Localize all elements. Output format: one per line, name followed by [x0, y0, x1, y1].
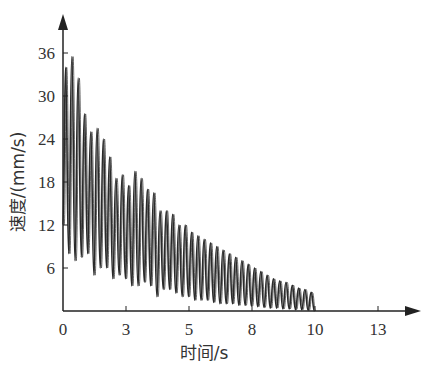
x-axis-title: 时间/s [180, 343, 229, 363]
x-tick-label: 13 [370, 320, 387, 339]
y-axis-title: 速度/(mm/s) [8, 132, 28, 233]
x-axis [63, 306, 421, 316]
x-tick-label: 3 [122, 320, 131, 339]
y-tick-label: 30 [38, 87, 55, 106]
y-axis-arrow-icon [58, 14, 68, 30]
x-tick-label: 8 [248, 320, 257, 339]
y-tick-label: 24 [38, 130, 56, 149]
y-tick-label: 18 [38, 173, 55, 192]
x-tick-label: 10 [307, 320, 324, 339]
x-tick-label: 0 [59, 320, 68, 339]
x-tick-label: 5 [185, 320, 194, 339]
y-tick-label: 36 [38, 44, 55, 63]
y-tick-label: 6 [47, 259, 56, 278]
x-axis-arrow-icon [405, 306, 421, 316]
velocity-series [63, 57, 316, 311]
velocity-chart: 61218243036 03581013 时间/s 速度/(mm/s) [0, 0, 446, 382]
y-tick-label: 12 [38, 216, 55, 235]
